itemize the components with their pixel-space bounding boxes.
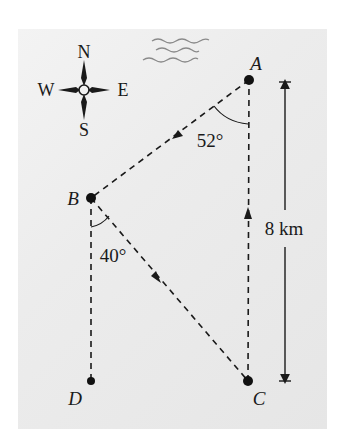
path-c-to-a bbox=[248, 80, 249, 381]
angle-arc-b bbox=[91, 216, 109, 227]
compass-east-label: E bbox=[118, 80, 129, 100]
point-d-label: D bbox=[67, 388, 82, 409]
waves-icon bbox=[143, 39, 209, 62]
angle-a-label: 52° bbox=[197, 130, 224, 151]
path-a-to-b bbox=[91, 80, 249, 198]
angle-arc-a bbox=[214, 106, 248, 124]
compass-west-label: W bbox=[38, 80, 55, 100]
point-b-label: B bbox=[67, 188, 79, 209]
point-a-label: A bbox=[248, 53, 262, 74]
compass-north-label: N bbox=[78, 42, 91, 62]
compass-south-label: S bbox=[79, 120, 89, 140]
arrow-toward-a-icon bbox=[244, 207, 252, 219]
distance-label: 8 km bbox=[265, 218, 304, 239]
angle-b-label: 40° bbox=[100, 245, 127, 266]
navigation-diagram: N S W E 52° 40° A B C D 8 km bbox=[0, 0, 349, 445]
point-c bbox=[243, 376, 253, 386]
arrow-toward-b-icon bbox=[172, 130, 183, 139]
point-a bbox=[244, 75, 254, 85]
point-d bbox=[87, 377, 95, 385]
point-c-label: C bbox=[253, 388, 266, 409]
path-b-to-c bbox=[91, 198, 248, 381]
point-b bbox=[86, 193, 96, 203]
compass-rose-icon bbox=[58, 60, 110, 120]
